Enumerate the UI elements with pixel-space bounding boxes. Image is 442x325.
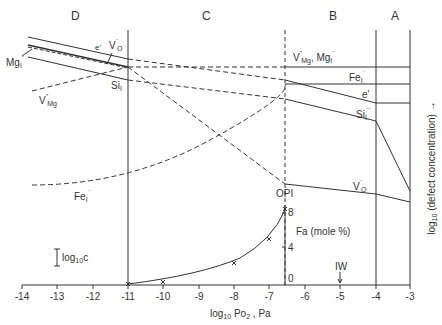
fa-tick-4: 4: [288, 243, 294, 253]
fa-tick-8: 8: [288, 208, 294, 218]
x-tick: -7: [265, 292, 274, 302]
e-prime-line-c: [128, 59, 285, 80]
fa-tick-0: 0: [288, 274, 294, 284]
x-tick: -5: [336, 292, 345, 302]
label-fe-right: FeI¨: [349, 70, 364, 84]
region-label-a: A: [391, 10, 399, 22]
fa-axis-title: Fa (mole %): [296, 227, 350, 237]
label-e-prime-right: e': [362, 90, 369, 100]
label-iw: IW: [335, 262, 347, 272]
region-label-b: B: [329, 10, 337, 22]
vo-line-c: [128, 67, 285, 184]
label-vo-right: V¨O: [353, 179, 366, 193]
fa-curve: [128, 210, 285, 284]
label-fe-left: FeI¨: [74, 189, 89, 203]
label-e-prime-left: e': [95, 44, 101, 52]
y-axis-title: log10 (defect concentration) →: [426, 101, 438, 234]
x-tick: -3: [406, 292, 415, 302]
si-line-a: [376, 121, 410, 191]
label-si-left: SiI¨: [111, 78, 123, 92]
label-vo-left: V¨O: [109, 38, 122, 52]
region-label-c: C: [202, 10, 211, 22]
label-si-right: SiI¨¨: [356, 107, 370, 121]
label-vmg-left: V"Mg: [39, 93, 57, 107]
label-mg-left: MgI¨: [6, 55, 23, 69]
x-tick: -4: [372, 292, 381, 302]
si-line-c: [128, 80, 285, 99]
x-tick: -13: [50, 292, 64, 302]
scale-bar-label: log10c: [62, 253, 88, 264]
x-tick: -6: [301, 292, 310, 302]
x-tick: -12: [86, 292, 100, 302]
region-label-d: D: [71, 10, 80, 22]
fe-line-c: [32, 84, 286, 185]
vo-line-a: [376, 194, 410, 202]
x-axis-title: log10 Po2 , Pa: [210, 309, 271, 320]
label-vmg-mg-right: V"Mg, MgI¨: [293, 50, 334, 64]
x-tick: -11: [121, 292, 135, 302]
label-opi: OPI: [276, 189, 293, 199]
x-tick: -8: [230, 292, 239, 302]
x-tick: -9: [195, 292, 204, 302]
defect-diagram-lines: [0, 0, 442, 325]
x-tick: -14: [15, 292, 29, 302]
x-axis-ticks: [22, 285, 410, 289]
x-tick: -10: [156, 292, 170, 302]
fa-markers: [126, 207, 287, 286]
si-line-d: [28, 57, 128, 80]
